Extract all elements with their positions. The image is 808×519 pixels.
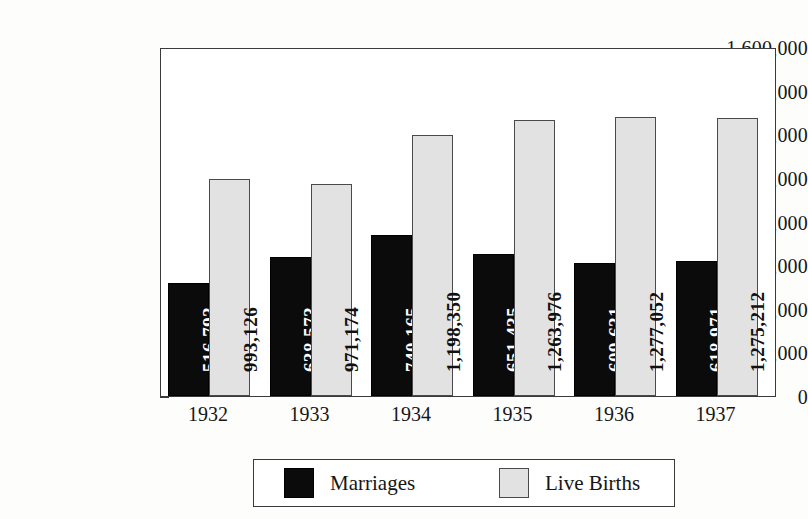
chart-legend: MarriagesLive Births bbox=[253, 459, 675, 507]
bar-value-wrap: 638,573 bbox=[271, 241, 312, 391]
bar-value-label: 1,198,350 bbox=[443, 292, 462, 373]
bar-marriages: 651,435 bbox=[473, 254, 514, 396]
x-axis-tick-label: 1932 bbox=[153, 403, 263, 425]
bar-value-wrap: 609,631 bbox=[575, 241, 616, 391]
legend-label: Marriages bbox=[330, 472, 415, 494]
bar-value-label: 1,263,976 bbox=[545, 292, 564, 373]
bar-value-wrap: 1,277,052 bbox=[616, 241, 657, 391]
bar-group: 609,6311,277,052 bbox=[574, 49, 656, 396]
bar-live-births: 1,198,350 bbox=[412, 135, 453, 396]
bar-group: 516,793993,126 bbox=[168, 49, 250, 396]
x-axis-tick-label: 1935 bbox=[458, 403, 568, 425]
bar-group: 618,9711,275,212 bbox=[676, 49, 758, 396]
legend-swatch-live-births bbox=[499, 468, 529, 498]
bar-marriages: 609,631 bbox=[574, 263, 615, 396]
bar-value-wrap: 516,793 bbox=[169, 241, 210, 391]
bar-value-wrap: 651,435 bbox=[474, 241, 515, 391]
bar-marriages: 740,165 bbox=[371, 235, 412, 396]
plot-area: 516,793993,126638,573971,174740,1651,198… bbox=[160, 48, 776, 397]
bars-container: 516,793993,126638,573971,174740,1651,198… bbox=[161, 49, 775, 396]
bar-live-births: 1,275,212 bbox=[717, 118, 758, 396]
bar-group: 651,4351,263,976 bbox=[473, 49, 555, 396]
bar-value-wrap: 740,165 bbox=[372, 241, 413, 391]
bar-group: 638,573971,174 bbox=[270, 49, 352, 396]
bar-value-label: 1,277,052 bbox=[646, 292, 665, 373]
bar-value-wrap: 1,275,212 bbox=[718, 241, 759, 391]
bar-value-wrap: 618,971 bbox=[677, 241, 718, 391]
legend-entry: Live Births bbox=[499, 460, 640, 506]
bar-live-births: 1,277,052 bbox=[615, 117, 656, 396]
bar-value-label: 1,275,212 bbox=[748, 292, 767, 373]
bar-live-births: 993,126 bbox=[209, 179, 250, 396]
legend-label: Live Births bbox=[545, 472, 640, 494]
bar-value-wrap: 971,174 bbox=[312, 241, 353, 391]
bar-value-label: 993,126 bbox=[240, 307, 259, 372]
bar-value-wrap: 993,126 bbox=[210, 241, 251, 391]
bar-marriages: 618,971 bbox=[676, 261, 717, 396]
bar-live-births: 1,263,976 bbox=[514, 120, 555, 396]
bar-value-label: 971,174 bbox=[342, 307, 361, 372]
bar-value-wrap: 1,198,350 bbox=[413, 241, 454, 391]
legend-swatch-marriages bbox=[284, 468, 314, 498]
bar-live-births: 971,174 bbox=[311, 184, 352, 396]
x-axis-tick-label: 1937 bbox=[661, 403, 771, 425]
x-axis-tick-label: 1934 bbox=[356, 403, 466, 425]
x-axis-tick-label: 1936 bbox=[559, 403, 669, 425]
bar-marriages: 638,573 bbox=[270, 257, 311, 396]
bar-value-wrap: 1,263,976 bbox=[515, 241, 556, 391]
y-axis-major-tick bbox=[160, 397, 169, 398]
bar-group: 740,1651,198,350 bbox=[371, 49, 453, 396]
x-axis-tick-label: 1933 bbox=[255, 403, 365, 425]
bar-chart: 1,600,0001,400,0001,200,0001,000,000800,… bbox=[0, 0, 808, 519]
bar-marriages: 516,793 bbox=[168, 283, 209, 396]
legend-entry: Marriages bbox=[284, 460, 415, 506]
